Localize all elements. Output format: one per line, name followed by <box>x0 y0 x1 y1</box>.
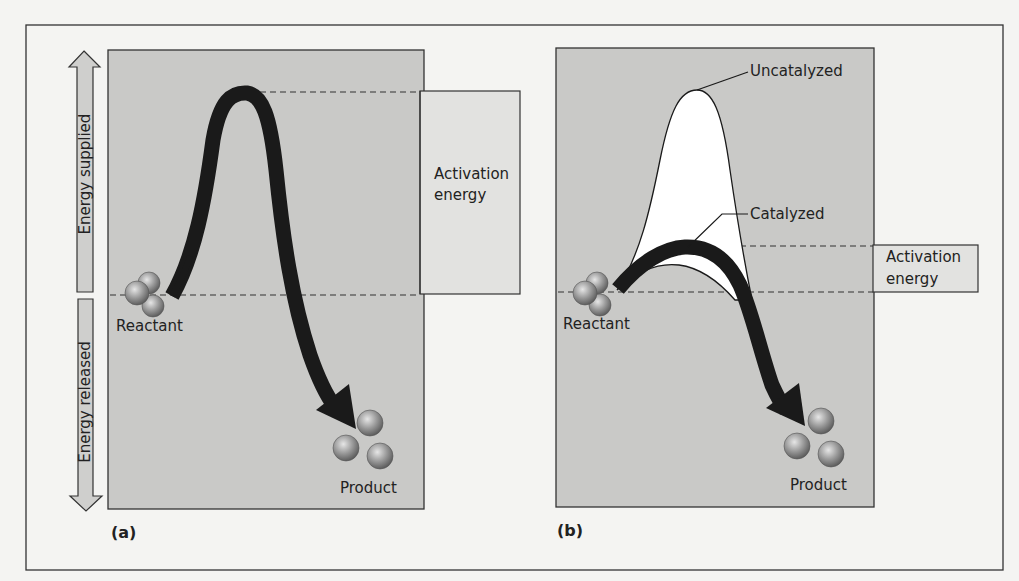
panel-a-activation-label-line1: Activation <box>434 165 509 184</box>
panel-b-product-label: Product <box>790 476 847 495</box>
uncatalyzed-label: Uncatalyzed <box>750 62 843 81</box>
catalyzed-label: Catalyzed <box>750 205 824 224</box>
panel-a-tag: (a) <box>111 523 136 542</box>
panel-a-activation-label-line2: energy <box>434 186 486 205</box>
panel-a <box>108 50 520 509</box>
panel-b-reactant-label: Reactant <box>563 315 630 334</box>
panel-b-activation-label-line1: Activation <box>886 248 961 267</box>
diagram-graphics <box>0 0 1019 581</box>
panel-b-tag: (b) <box>557 521 583 540</box>
energy-diagram-figure: Energy supplied Energy released Reactant… <box>0 0 1019 581</box>
panel-a-product-label: Product <box>340 479 397 498</box>
energy-released-label: Energy released <box>76 339 94 465</box>
energy-supplied-label: Energy supplied <box>76 112 94 236</box>
panel-b-activation-label-line2: energy <box>886 270 938 289</box>
panel-a-reactant-label: Reactant <box>116 317 183 336</box>
